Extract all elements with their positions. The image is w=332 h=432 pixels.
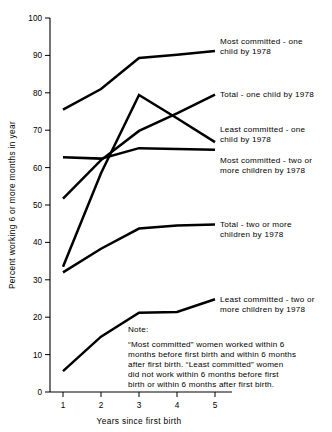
annotation-least-committed-two-or-more: Least committed - two or more children b…: [220, 295, 315, 314]
x-tick-label-3: 3: [137, 401, 142, 410]
series-line-most-committed-two-or-more: [63, 148, 215, 158]
y-tick-label-100: 100: [28, 14, 42, 23]
y-tick-label-40: 40: [33, 238, 43, 247]
y-tick-label-50: 50: [33, 201, 43, 210]
series-line-most-committed-one-child: [63, 51, 215, 110]
annotation-least-committed-one-child: Least committed - one child by 1978: [220, 125, 306, 144]
annotation-line-1: Most committed - one: [220, 37, 303, 46]
note-line-2: months before first birth and within 6 m…: [128, 350, 296, 359]
note-line-5: birth or within 6 months after first bir…: [128, 380, 274, 389]
y-tick-label-80: 80: [33, 89, 43, 98]
annotation-line-1: Most committed - two or: [220, 156, 312, 165]
y-axis-ticks: [45, 18, 50, 392]
annotation-line-2: child by 1978: [220, 135, 271, 144]
annotation-line-2: children by 1978: [220, 230, 284, 239]
x-tick-label-1: 1: [61, 401, 66, 410]
y-tick-label-60: 60: [33, 164, 43, 173]
y-tick-label-10: 10: [33, 351, 43, 360]
annotation-total-two-or-more: Total - two or more children by 1978: [220, 220, 292, 239]
annotation-line-1: Total - two or more: [220, 220, 292, 229]
annotation-most-committed-two-or-more: Most committed - two or more children by…: [220, 156, 312, 175]
y-tick-label-0: 0: [37, 388, 42, 397]
note-heading: Note:: [128, 325, 149, 334]
annotation-line-1: Least committed - one: [220, 125, 306, 134]
x-tick-label-4: 4: [175, 401, 180, 410]
y-tick-label-30: 30: [33, 276, 43, 285]
x-axis-ticks: [63, 392, 215, 397]
annotation-line-2: child by 1978: [220, 47, 271, 56]
series-line-total-one-child: [63, 95, 215, 199]
note-line-3: after first birth. “Least committed” wom…: [128, 360, 283, 369]
y-tick-label-20: 20: [33, 313, 43, 322]
series-line-total-two-or-more: [63, 224, 215, 272]
chart-canvas: 0 10 20 30 40 50 60 70 80 90 100 1 2 3 4…: [0, 0, 332, 432]
annotation-line-2: more children by 1978: [220, 305, 306, 314]
annotation-line-2: more children by 1978: [220, 166, 306, 175]
annotation-line-1: Least committed - two or: [220, 295, 315, 304]
annotation-total-one-child: Total - one child by 1978: [220, 90, 314, 99]
line-chart-figure: 0 10 20 30 40 50 60 70 80 90 100 1 2 3 4…: [0, 0, 332, 432]
y-tick-label-70: 70: [33, 126, 43, 135]
x-tick-label-5: 5: [213, 401, 218, 410]
y-tick-label-90: 90: [33, 51, 43, 60]
note-block: Note: “Most committed” women worked with…: [128, 325, 296, 389]
series-line-least-committed-one-child: [63, 95, 215, 267]
y-axis-title: Percent working 6 or more months in year: [7, 121, 17, 289]
note-line-4: did not work within 6 months before firs…: [128, 370, 279, 379]
x-tick-label-2: 2: [99, 401, 104, 410]
annotation-line-1: Total - one child by 1978: [220, 90, 314, 99]
note-line-1: “Most committed” women worked within 6: [128, 340, 285, 349]
annotation-most-committed-one-child: Most committed - one child by 1978: [220, 37, 303, 56]
x-axis-title: Years since first birth: [97, 416, 182, 426]
